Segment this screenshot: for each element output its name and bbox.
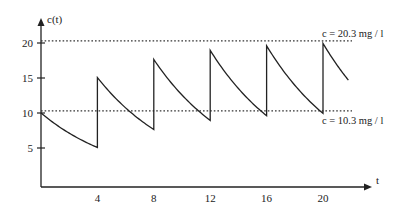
chart: c(t) t 5101520 48121620 c = 20.3 mg / lc… (0, 0, 400, 211)
y-axis-title: c(t) (47, 13, 63, 26)
x-axis-title: t (376, 174, 379, 186)
x-tick-label: 4 (95, 192, 101, 204)
series (41, 43, 348, 147)
y-tick-label: 5 (28, 142, 34, 154)
reference-line-label: c = 20.3 mg / l (322, 28, 383, 39)
x-axis-arrow-icon (364, 184, 372, 191)
x-tick-label: 8 (151, 192, 157, 204)
series-line (41, 43, 348, 147)
reference-line-label: c = 10.3 mg / l (322, 115, 383, 126)
y-tick-label: 15 (22, 72, 34, 84)
y-axis-arrow-icon (38, 18, 45, 26)
y-tick-label: 20 (22, 37, 34, 49)
axes: c(t) t (38, 13, 380, 191)
reference-lines: c = 20.3 mg / lc = 10.3 mg / l (41, 28, 383, 126)
x-tick-label: 20 (318, 192, 330, 204)
x-tick-label: 16 (261, 192, 273, 204)
y-tick-label: 10 (22, 107, 34, 119)
x-tick-label: 12 (205, 192, 216, 204)
x-ticks: 48121620 (95, 192, 329, 204)
